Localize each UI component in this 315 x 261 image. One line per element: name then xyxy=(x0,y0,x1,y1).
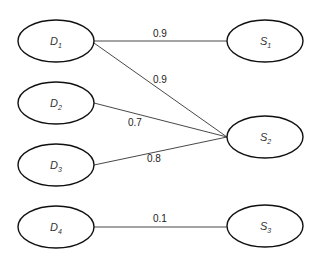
node-d1-sub: 1 xyxy=(58,42,62,49)
node-d2-letter: D xyxy=(50,97,58,109)
edge-d2-s2 xyxy=(94,103,227,137)
node-d3-sub: 3 xyxy=(58,166,62,173)
edge-d1-s2 xyxy=(94,43,227,137)
node-d1-letter: D xyxy=(50,35,58,47)
node-s3: S3 xyxy=(227,205,303,247)
node-s2: S2 xyxy=(227,116,303,158)
node-s3-sub: 3 xyxy=(267,227,271,234)
edge-label-d4-s3: 0.1 xyxy=(153,213,167,224)
node-d3-letter: D xyxy=(50,159,58,171)
edge-label-d2-s2: 0.7 xyxy=(128,117,142,128)
node-d3: D3 xyxy=(18,144,94,186)
diagram-canvas: 0.9 0.9 0.7 0.8 0.1 D1 D2 D3 D4 S1 xyxy=(0,0,315,261)
node-d2: D2 xyxy=(18,82,94,124)
edge-labels: 0.9 0.9 0.7 0.8 0.1 xyxy=(128,28,167,224)
node-d4-sub: 4 xyxy=(58,228,62,235)
edges xyxy=(94,41,227,227)
node-d4: D4 xyxy=(18,206,94,248)
graph-svg: 0.9 0.9 0.7 0.8 0.1 D1 D2 D3 D4 S1 xyxy=(0,0,315,261)
edge-label-d1-s2: 0.9 xyxy=(153,74,167,85)
edge-label-d1-s1: 0.9 xyxy=(153,28,167,39)
edge-label-d3-s2: 0.8 xyxy=(147,153,161,164)
node-s1: S1 xyxy=(227,20,303,62)
node-d1: D1 xyxy=(18,20,94,62)
node-s2-sub: 2 xyxy=(266,138,271,145)
node-d2-sub: 2 xyxy=(57,104,62,111)
node-s1-sub: 1 xyxy=(267,42,271,49)
node-d4-letter: D xyxy=(50,221,58,233)
